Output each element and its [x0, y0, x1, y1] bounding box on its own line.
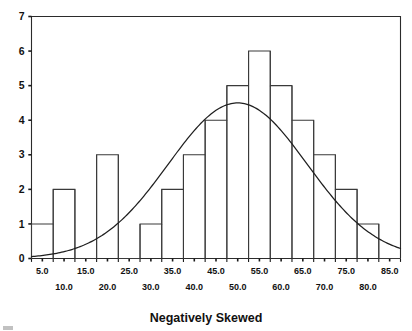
x-tick-label-10.0: 10.0 — [55, 282, 73, 292]
x-tick-label-70.0: 70.0 — [316, 282, 334, 292]
y-tick-label-1: 1 — [19, 218, 25, 230]
x-axis-tick-labels: 5.015.025.035.045.055.065.075.085.010.02… — [36, 266, 398, 292]
x-tick-label-45.0: 45.0 — [207, 266, 225, 276]
x-tick-label-55.0: 55.0 — [251, 266, 269, 276]
x-tick-label-85.0: 85.0 — [381, 266, 399, 276]
normal-distribution-curve — [32, 103, 401, 257]
x-tick-label-5.0: 5.0 — [36, 266, 49, 276]
x-tick-label-30.0: 30.0 — [142, 282, 160, 292]
y-tick-label-6: 6 — [19, 45, 25, 57]
y-tick-label-5: 5 — [19, 79, 25, 91]
x-tick-label-35.0: 35.0 — [164, 266, 182, 276]
scan-artifact — [3, 326, 13, 330]
y-tick-label-4: 4 — [19, 114, 25, 126]
x-tick-label-25.0: 25.0 — [120, 266, 138, 276]
x-tick-label-60.0: 60.0 — [272, 282, 290, 292]
x-tick-label-80.0: 80.0 — [359, 282, 377, 292]
y-tick-label-7: 7 — [19, 10, 25, 22]
histogram-outline — [32, 51, 401, 258]
x-axis-title: Negatively Skewed — [150, 311, 263, 325]
x-tick-label-50.0: 50.0 — [229, 282, 247, 292]
y-axis-tick-labels: 01234567 — [19, 10, 25, 264]
normal-curve-path — [32, 103, 401, 257]
y-tick-label-3: 3 — [19, 148, 25, 160]
x-tick-label-15.0: 15.0 — [77, 266, 95, 276]
x-tick-label-40.0: 40.0 — [186, 282, 204, 292]
y-tick-label-2: 2 — [19, 183, 25, 195]
x-tick-label-75.0: 75.0 — [337, 266, 355, 276]
plot-border — [32, 17, 401, 259]
chart-canvas: 01234567 5.015.025.035.045.055.065.075.0… — [0, 0, 412, 331]
histogram-bars — [32, 51, 401, 258]
y-tick-label-0: 0 — [19, 252, 25, 264]
plot-frame — [32, 17, 401, 259]
x-tick-label-65.0: 65.0 — [294, 266, 312, 276]
histogram-figure: 01234567 5.015.025.035.045.055.065.075.0… — [0, 0, 412, 331]
x-tick-label-20.0: 20.0 — [99, 282, 117, 292]
